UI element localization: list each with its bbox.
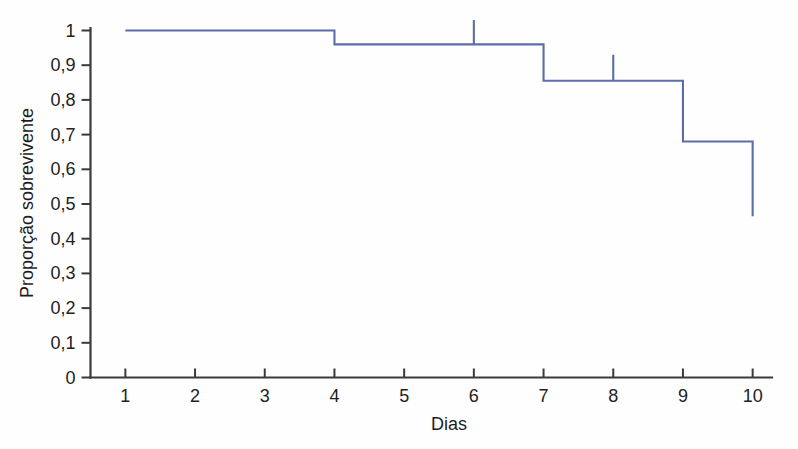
x-axis-ticks: 12345678910 [120, 369, 762, 406]
y-tick-label-1: 0,1 [50, 333, 75, 353]
x-tick-label-1: 2 [190, 386, 200, 406]
y-tick-label-2: 0,2 [50, 298, 75, 318]
y-tick-label-4: 0,4 [50, 229, 75, 249]
km-step-curve [125, 31, 752, 217]
x-tick-label-7: 8 [608, 386, 618, 406]
x-tick-label-3: 4 [329, 386, 339, 406]
y-axis-title: Proporção sobrevivente [17, 108, 37, 298]
y-tick-label-6: 0,6 [50, 159, 75, 179]
km-survival-plot: 00,10,20,30,40,50,60,70,80,91 1234567891… [0, 0, 798, 449]
y-axis-ticks: 00,10,20,30,40,50,60,70,80,91 [50, 21, 90, 388]
x-tick-label-8: 9 [678, 386, 688, 406]
y-tick-label-8: 0,8 [50, 90, 75, 110]
x-tick-label-9: 10 [743, 386, 763, 406]
y-tick-label-0: 0 [65, 368, 75, 388]
y-tick-label-3: 0,3 [50, 263, 75, 283]
x-tick-label-0: 1 [120, 386, 130, 406]
y-tick-label-5: 0,5 [50, 194, 75, 214]
x-axis-title: Dias [431, 414, 467, 434]
x-tick-label-6: 7 [539, 386, 549, 406]
y-tick-label-9: 0,9 [50, 55, 75, 75]
x-tick-label-5: 6 [469, 386, 479, 406]
y-tick-label-7: 0,7 [50, 125, 75, 145]
chart-figure: 00,10,20,30,40,50,60,70,80,91 1234567891… [0, 0, 798, 449]
x-tick-label-4: 5 [399, 386, 409, 406]
y-tick-label-10: 1 [65, 21, 75, 41]
x-tick-label-2: 3 [260, 386, 270, 406]
